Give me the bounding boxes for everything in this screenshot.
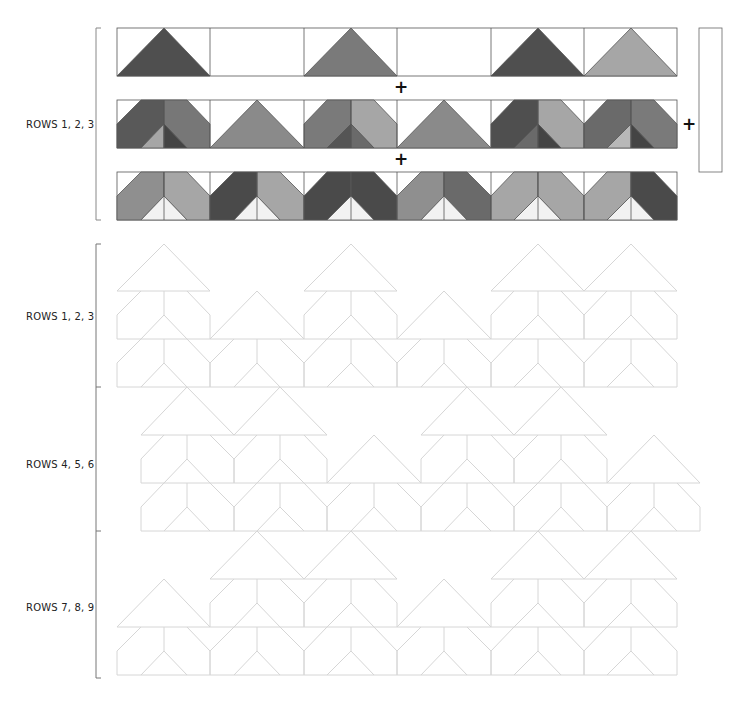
bottom-section-2-label: ROWS 4, 5, 6	[26, 459, 94, 470]
bottom-bracket	[96, 244, 101, 678]
strip-2	[117, 100, 677, 148]
strip-1	[117, 28, 677, 76]
plus-icon: +	[394, 151, 408, 168]
strip-3	[117, 172, 677, 220]
plus-icon: +	[682, 116, 696, 133]
top-section-label: ROWS 1, 2, 3	[26, 119, 94, 130]
side-border-strip	[699, 28, 722, 172]
plus-icon: +	[394, 79, 408, 96]
top-bracket	[96, 28, 101, 220]
bottom-section-1-label: ROWS 1, 2, 3	[26, 311, 94, 322]
quilt-layout-diagram	[0, 0, 749, 705]
bottom-section-3-label: ROWS 7, 8, 9	[26, 602, 94, 613]
outline-pattern	[117, 244, 700, 675]
